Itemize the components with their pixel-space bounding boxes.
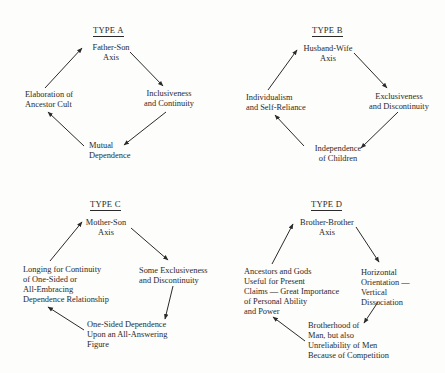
node-longing-for-continuity: Longing for Continuity of One-Sided or A… [23, 265, 109, 305]
arrow-b-bottom-left [275, 115, 304, 146]
node-husband-wife-axis: Husband-Wife Axis [296, 44, 360, 64]
node-brotherhood-of-man: Brotherhood of Man, but also Unreliabili… [308, 321, 389, 361]
arrow-b-right-bottom [361, 112, 398, 148]
node-brother-brother-axis: Brother-Brother Axis [297, 218, 357, 238]
cycle-arrows [0, 0, 445, 373]
diagram-title-type-a: TYPE A [93, 25, 124, 37]
node-exclusiveness-discontinuity: Exclusiveness and Discontinuity [361, 92, 437, 112]
arrow-d-left-top [272, 224, 293, 264]
arrow-d-bottom-left [273, 317, 305, 341]
node-individualism-self-reliance: Individualism and Self-Reliance [246, 93, 306, 113]
diagram-title-type-c: TYPE C [90, 199, 121, 211]
node-mother-son-axis: Mother-Son Axis [84, 218, 128, 238]
node-one-sided-dependence: One-Sided Dependence Upon an All-Answeri… [87, 320, 167, 350]
node-horizontal-orientation: Horizontal Orientation — Vertical Dissoc… [361, 268, 410, 308]
arrow-c-left-top [50, 222, 82, 261]
diagram-title-type-b: TYPE B [312, 25, 343, 37]
node-independence-of-children: Independence of Children [307, 144, 369, 164]
arrow-c-right-bottom [165, 286, 173, 319]
node-inclusiveness-continuity: Inclusiveness and Continuity [138, 89, 200, 109]
diagram-title-type-d: TYPE D [311, 199, 342, 211]
arrow-b-left-top [268, 50, 297, 90]
node-elaboration-ancestor-cult: Elaboration of Ancestor Cult [25, 90, 73, 110]
node-father-son-axis: Father-Son Axis [86, 43, 136, 63]
arrow-a-bottom-left [48, 112, 84, 146]
node-mutual-dependence: Mutual Dependence [89, 141, 130, 161]
node-some-exclusiveness-discontinuity: Some Exclusiveness and Discontinuity [139, 266, 208, 286]
arrow-d-top-right [356, 227, 379, 262]
arrow-c-bottom-left [48, 307, 84, 330]
arrow-a-left-top [45, 48, 82, 88]
node-ancestors-and-gods: Ancestors and Gods Useful for Present Cl… [244, 267, 339, 317]
arrow-c-top-right [131, 228, 168, 260]
